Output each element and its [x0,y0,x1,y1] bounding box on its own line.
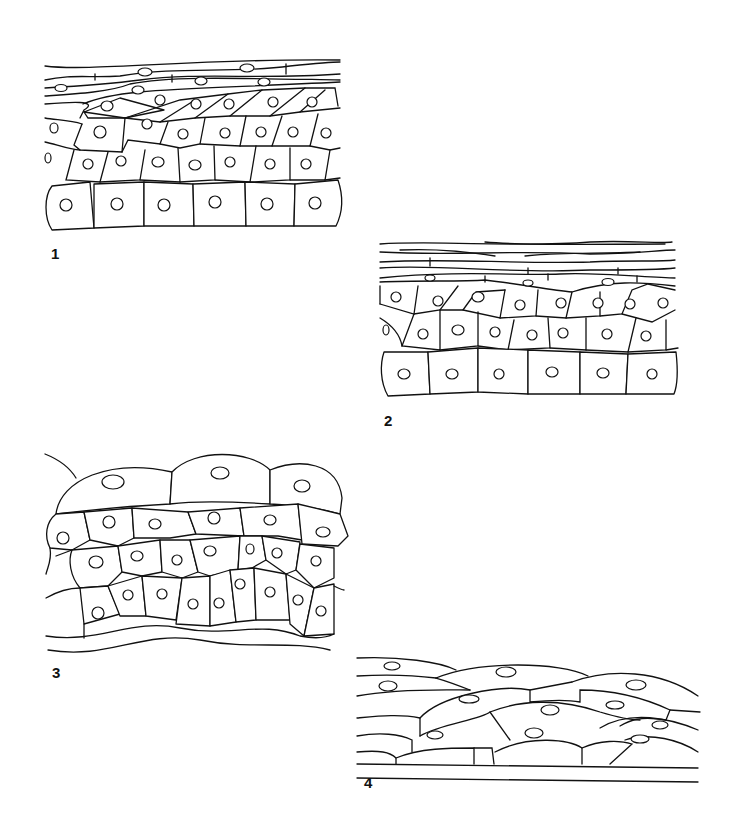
panel-1-label: 1 [51,245,59,262]
panel-4-label: 4 [364,774,372,791]
panel-1-drawing [0,0,360,270]
panel-4-drawing [340,640,738,822]
panel-4: 4 [340,640,738,822]
panel-3-drawing [0,440,360,690]
panel-2: 2 [360,230,738,440]
panel-2-label: 2 [384,412,392,429]
panel-2-drawing [360,230,738,440]
panel-3: 3 [0,440,360,690]
panel-1: 1 [0,0,360,270]
panel-3-label: 3 [52,664,60,681]
panel-4-nuclei [379,662,668,743]
